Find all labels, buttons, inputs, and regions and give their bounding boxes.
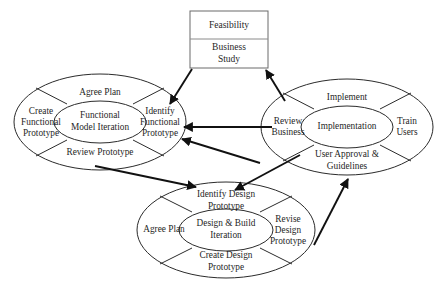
arrow-functional-to-identify-design: [95, 166, 196, 187]
functional-segment-right-label-line3: Prototype: [142, 128, 178, 138]
functional-segment-left-label-line2: Functional: [21, 117, 61, 127]
design-center-label-line1: Design & Build: [197, 218, 256, 228]
phase-feasibility-label: Feasibility: [209, 20, 249, 30]
implementation-segment-right-label-line2: Users: [396, 127, 418, 137]
design-segment-right-label-line3: Prototype: [270, 236, 306, 246]
functional-center-label-line1: Functional: [80, 110, 120, 120]
design-segment-right-label-line2: Design: [275, 225, 302, 235]
functional-segment-right-label-line2: Functional: [140, 117, 180, 127]
implementation-segment-top-label: Implement: [327, 92, 368, 102]
implementation-segment-bottom-label-line1: User Approval &: [315, 149, 380, 159]
design-segment-right-label-line1: Revise: [275, 214, 300, 224]
implementation-segment-right-label-line1: Train: [397, 116, 417, 126]
design-segment-top-label-line1: Identify Design: [197, 189, 255, 199]
cycle-implementation: Implement Review Business Train Users Us…: [261, 79, 433, 175]
implementation-segment-bottom-label-line2: Guidelines: [327, 161, 368, 171]
functional-segment-bottom-label: Review Prototype: [67, 147, 134, 157]
functional-segment-right-label-line1: Identify: [145, 106, 175, 116]
implementation-center-label: Implementation: [318, 121, 377, 131]
design-segment-top-label-line2: Prototype: [208, 201, 244, 211]
phase-box: Feasibility Business Study: [190, 11, 268, 68]
phase-business-study-label-line1: Business: [212, 42, 246, 52]
functional-segment-left-label-line3: Prototype: [23, 128, 59, 138]
implementation-segment-left-label-line1: Review: [274, 116, 303, 126]
design-segment-left-label: Agree Plan: [143, 224, 185, 234]
implementation-segment-left-label-line2: Business: [271, 127, 304, 137]
arrow-revise-design-to-user-approval: [314, 179, 348, 245]
phase-business-study-label-line2: Study: [218, 54, 240, 64]
cycle-functional-model-iteration: Agree Plan Create Functional Prototype I…: [14, 74, 186, 170]
design-center-label-line2: Iteration: [210, 230, 242, 240]
functional-center-label-line2: Model Iteration: [71, 122, 129, 132]
arrow-review-business-to-business-study: [266, 70, 285, 101]
arrow-design-area-to-identify-functional: [182, 139, 260, 163]
design-segment-bottom-label-line1: Create Design: [200, 250, 253, 260]
diagram-canvas: Feasibility Business Study Agree Plan Cr…: [0, 0, 445, 289]
design-segment-bottom-label-line2: Prototype: [208, 262, 244, 272]
cycle-design-and-build-iteration: Identify Design Prototype Agree Plan Rev…: [137, 182, 315, 278]
functional-segment-left-label-line1: Create: [29, 106, 53, 116]
arrow-review-business-to-identify-design: [235, 155, 300, 190]
dsdm-lifecycle-diagram: Feasibility Business Study Agree Plan Cr…: [0, 0, 445, 289]
arrow-business-study-to-identify-functional: [170, 69, 192, 104]
functional-segment-top-label: Agree Plan: [79, 87, 121, 97]
